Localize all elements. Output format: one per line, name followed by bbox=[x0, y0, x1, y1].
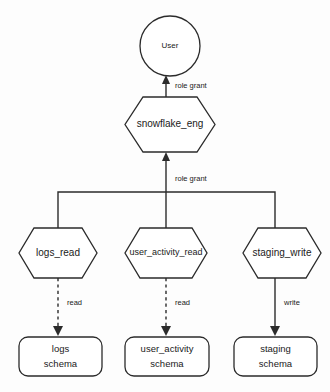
diagram-canvas: role grant role grant read read bbox=[0, 0, 330, 392]
edge-label-write-staging: write bbox=[283, 298, 300, 307]
node-label-staging-write: staging_write bbox=[253, 247, 312, 258]
edge-snowflake-eng-to-user: role grant bbox=[162, 75, 208, 97]
node-label-staging-schema-line1: staging bbox=[260, 343, 291, 354]
node-label-user-activity-schema-line1: user_activity bbox=[141, 343, 194, 354]
arrowhead-icon bbox=[270, 326, 280, 336]
role-grant-diagram: role grant role grant read read bbox=[0, 0, 330, 392]
node-label-user: User bbox=[162, 41, 179, 50]
arrowhead-icon bbox=[161, 326, 171, 336]
node-label-logs-read: logs_read bbox=[36, 247, 80, 258]
node-label-snowflake-eng: snowflake_eng bbox=[137, 118, 204, 129]
edge-label-read-user-activity: read bbox=[175, 298, 190, 307]
edge-label-role-grant-lower: role grant bbox=[175, 174, 208, 183]
node-staging-write[interactable]: staging_write bbox=[243, 228, 321, 278]
edge-label-read-logs: read bbox=[67, 298, 82, 307]
edge-user-activity-read-to-user-activity-schema: read bbox=[161, 278, 190, 336]
edge-staging-write-to-staging-schema: write bbox=[270, 278, 300, 336]
edge-roles-to-snowflake-eng: role grant bbox=[162, 152, 208, 192]
node-logs-read[interactable]: logs_read bbox=[19, 228, 97, 278]
node-staging-schema[interactable]: staging schema bbox=[234, 337, 317, 376]
node-label-user-activity-read: user_activity_read bbox=[129, 247, 202, 257]
node-user-activity-read[interactable]: user_activity_read bbox=[125, 228, 207, 278]
node-label-user-activity-schema-line2: schema bbox=[150, 358, 184, 369]
node-user[interactable]: User bbox=[140, 16, 200, 76]
edge-logs-read-to-logs-schema: read bbox=[53, 278, 82, 336]
role-bus-connector bbox=[58, 192, 275, 228]
node-label-logs-schema-line2: schema bbox=[44, 358, 78, 369]
node-user-activity-schema[interactable]: user_activity schema bbox=[125, 337, 209, 376]
arrowhead-icon bbox=[53, 326, 63, 336]
node-snowflake-eng[interactable]: snowflake_eng bbox=[125, 97, 215, 152]
node-logs-schema[interactable]: logs schema bbox=[19, 337, 102, 376]
arrowhead-icon bbox=[162, 152, 170, 161]
edge-label-role-grant-upper: role grant bbox=[175, 81, 208, 90]
node-label-staging-schema-line2: schema bbox=[259, 358, 293, 369]
node-label-logs-schema-line1: logs bbox=[52, 343, 70, 354]
